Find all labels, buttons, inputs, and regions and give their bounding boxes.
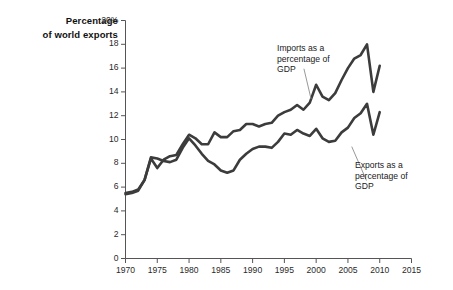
y-tick-label: 6 (95, 182, 119, 191)
chart-plot-area (0, 0, 453, 290)
x-tick-label: 2000 (301, 266, 331, 275)
y-tick-label: 8 (95, 158, 119, 167)
y-tick-label: 18 (95, 39, 119, 48)
y-tick-label: 10 (95, 135, 119, 144)
x-tick-label: 1995 (269, 266, 299, 275)
y-tick-label: 12 (95, 111, 119, 120)
y-tick-label: 0 (95, 254, 119, 263)
x-tick-label: 1980 (174, 266, 204, 275)
chart-figure: Percentage of world exports 024681012141… (0, 0, 453, 290)
annotation-imports-as-percentage-of-gdp: Imports as a percentage of GDP (277, 43, 330, 75)
annotation-exports-as-percentage-of-gdp: Exports as a percentage of GDP (355, 160, 408, 192)
x-tick-label: 1985 (206, 266, 236, 275)
x-tick-label: 1975 (142, 266, 172, 275)
series-line-exports (126, 104, 380, 194)
x-tick-label: 1970 (111, 266, 141, 275)
x-tick-label: 1990 (238, 266, 268, 275)
x-tick-label: 2015 (397, 266, 427, 275)
y-tick-label: 2 (95, 230, 119, 239)
chart-series-lines (126, 44, 380, 194)
y-tick-label: 20% (89, 16, 119, 25)
y-tick-label: 16 (95, 63, 119, 72)
x-tick-label: 2010 (365, 266, 395, 275)
x-tick-label: 2005 (333, 266, 363, 275)
y-tick-label: 14 (95, 87, 119, 96)
y-tick-label: 4 (95, 206, 119, 215)
series-line-imports (126, 44, 380, 193)
